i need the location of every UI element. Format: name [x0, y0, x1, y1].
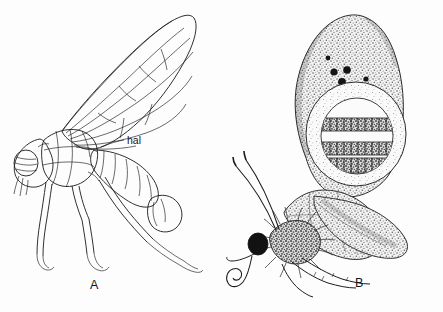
fly-abdomen: [91, 150, 182, 232]
artist-signature: C.W.: [356, 250, 367, 255]
halter-label: hal: [127, 134, 141, 146]
butterfly-drawing-svg: [210, 0, 443, 312]
fly-compound-eye: [14, 150, 38, 176]
scientific-figure: hal A B C.W.: [0, 0, 443, 312]
fly-head: [14, 139, 53, 196]
panel-b-butterfly-illustration: [210, 0, 443, 312]
butterfly-antennae: [233, 151, 279, 230]
panel-a-fly-illustration: [0, 0, 222, 312]
fly-drawing-svg: [0, 0, 222, 312]
butterfly-head: [227, 151, 279, 287]
fly-legs: [37, 177, 203, 272]
butterfly-eye: [248, 233, 268, 255]
fly-wing: [62, 15, 196, 149]
panel-letter-a: A: [90, 278, 99, 292]
butterfly-ocellus-eyespot: [306, 82, 406, 186]
panel-letter-b: B: [355, 276, 364, 290]
